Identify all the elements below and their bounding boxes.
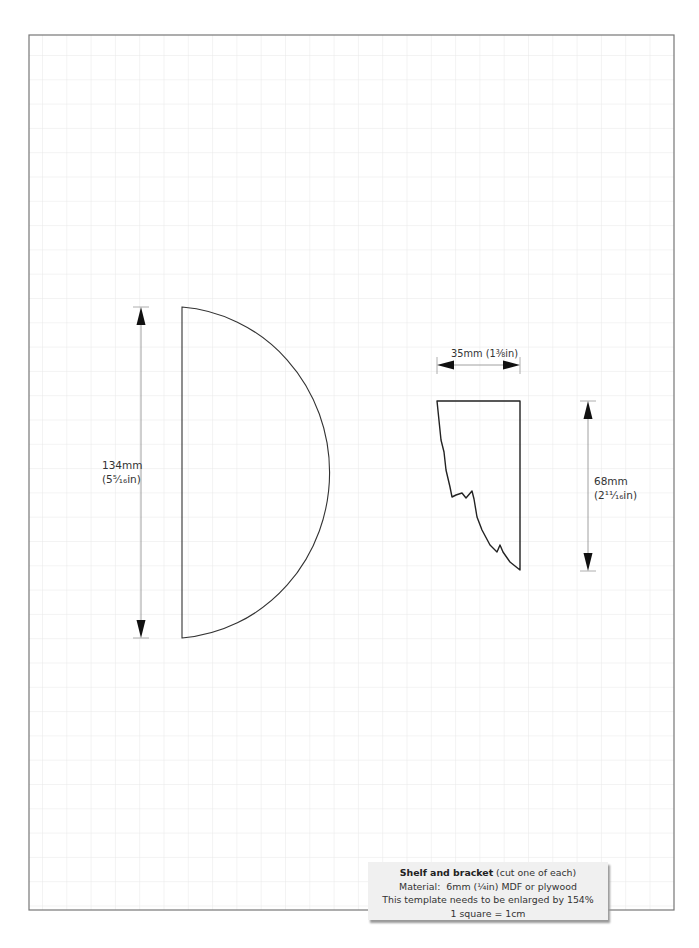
- shelf-dimension-label: 134mm (5⁵⁄₁₆in): [102, 458, 143, 486]
- caption-box: Shelf and bracket (cut one of each) Mate…: [368, 862, 608, 920]
- shelf-dimension-in: (5⁵⁄₁₆in): [102, 472, 143, 486]
- bracket-width-text: 35mm (1⅜in): [451, 348, 518, 359]
- bracket-width-label: 35mm (1⅜in): [451, 347, 518, 361]
- caption-title-note: (cut one of each): [493, 867, 576, 878]
- caption-material: Material: 6mm (¼in) MDF or plywood: [368, 880, 608, 894]
- shelf-dimension-mm: 134mm: [102, 458, 143, 472]
- bracket-height-mm: 68mm: [594, 474, 637, 488]
- caption-title: Shelf and bracket: [400, 867, 493, 878]
- caption-title-line: Shelf and bracket (cut one of each): [368, 866, 608, 880]
- caption-scale: 1 square = 1cm: [368, 907, 608, 921]
- bracket-height-label: 68mm (2¹¹⁄₁₆in): [594, 474, 637, 502]
- caption-enlarge: This template needs to be enlarged by 15…: [368, 893, 608, 907]
- bracket-height-in: (2¹¹⁄₁₆in): [594, 488, 637, 502]
